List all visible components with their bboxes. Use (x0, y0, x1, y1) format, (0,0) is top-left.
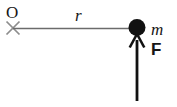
label-radius: r (75, 7, 82, 24)
label-mass: m (151, 21, 163, 38)
mass-point (129, 19, 146, 36)
label-force: F (151, 41, 161, 58)
force-arrow (130, 34, 145, 101)
label-origin: O (6, 4, 18, 21)
physics-diagram-figure: O r m F (0, 0, 177, 107)
